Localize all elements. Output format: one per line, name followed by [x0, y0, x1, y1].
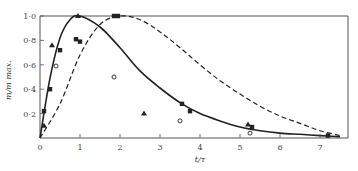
- square-marker: [48, 87, 52, 91]
- x-tick-label: 1: [77, 143, 82, 152]
- curves: [40, 16, 340, 138]
- square-marker: [326, 133, 330, 137]
- y-axis-label: m/m max.: [4, 60, 13, 100]
- square-marker: [180, 102, 184, 106]
- y-tick-label: 0·2: [23, 110, 36, 119]
- triangle-marker: [141, 111, 147, 116]
- x-tick-label: 4: [197, 143, 202, 152]
- y-tick-label: 0·6: [23, 61, 36, 70]
- x-axis-label: t/τ: [195, 155, 206, 164]
- solid-curve: [40, 16, 340, 138]
- square-marker: [42, 109, 46, 113]
- square-marker: [112, 14, 116, 18]
- open-circle-marker: [54, 64, 58, 68]
- square-marker: [116, 14, 120, 18]
- y-axis-ticks: 0·20·40·60·81·0: [23, 12, 44, 119]
- dashed-curve: [40, 16, 340, 138]
- square-marker: [74, 37, 78, 41]
- x-tick-label: 5: [237, 143, 242, 152]
- open-circle-marker: [248, 131, 252, 135]
- triangle-marker: [49, 42, 55, 47]
- x-tick-label: 0: [37, 143, 42, 152]
- chart: 01234567 0·20·40·60·81·0 t/τ m/m max.: [0, 0, 358, 171]
- square-marker: [78, 39, 82, 43]
- x-tick-label: 6: [277, 143, 282, 152]
- axes-box: [40, 16, 348, 138]
- y-tick-label: 0·4: [23, 85, 36, 94]
- x-tick-label: 3: [157, 143, 162, 152]
- x-tick-label: 2: [117, 143, 122, 152]
- square-marker: [188, 109, 192, 113]
- y-tick-label: 1·0: [23, 12, 36, 21]
- x-tick-label: 7: [317, 143, 322, 152]
- plot-frame: [40, 16, 348, 138]
- open-circle-marker: [112, 75, 116, 79]
- x-axis-ticks: 01234567: [37, 134, 322, 152]
- square-marker: [58, 48, 62, 52]
- data-points: [41, 13, 330, 138]
- y-tick-label: 0·8: [23, 36, 36, 45]
- open-circle-marker: [178, 119, 182, 123]
- square-marker: [250, 125, 254, 129]
